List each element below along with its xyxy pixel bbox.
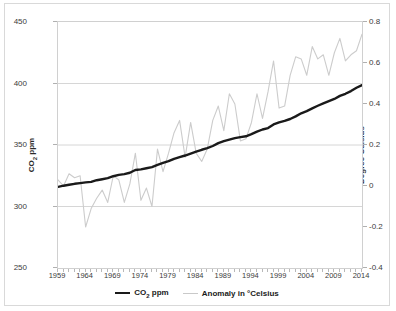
x-axis-minor-tick-mark: [217, 269, 218, 272]
x-axis-tick-label: 2014: [353, 271, 370, 280]
x-axis-minor-tick-mark: [118, 269, 119, 272]
y-axis-right-tick-label: 0.6: [369, 58, 396, 67]
y-axis-left-tick-mark: [53, 206, 57, 207]
x-axis-minor-tick-mark: [223, 269, 224, 272]
x-axis-tick-label: 1959: [49, 271, 66, 280]
x-axis-tick-label: 1989: [214, 271, 231, 280]
y-axis-left-tick-label: 300: [0, 201, 27, 210]
plot-area: [57, 21, 363, 269]
x-axis-minor-tick-mark: [306, 269, 307, 272]
y-axis-right-tick-mark: [363, 226, 367, 227]
y-axis-left-title: CO2 ppm: [27, 137, 38, 171]
y-axis-right-tick-label: 0.8: [369, 17, 396, 26]
x-axis-minor-tick-mark: [101, 269, 102, 272]
chart-svg: [58, 22, 362, 268]
x-axis-minor-tick-mark: [140, 269, 141, 272]
x-axis-tick-label: 1974: [132, 271, 149, 280]
x-axis-minor-tick-mark: [278, 269, 279, 272]
y-axis-right-tick-mark: [363, 21, 367, 22]
x-axis-minor-tick-mark: [151, 269, 152, 272]
x-axis-minor-tick-mark: [234, 269, 235, 272]
y-axis-right-tick-label: -0.4: [369, 263, 396, 272]
x-axis-minor-tick-mark: [212, 269, 213, 272]
legend-swatch-anomaly: [183, 293, 198, 294]
y-axis-right-tick-label: 0.2: [369, 140, 396, 149]
x-axis-minor-tick-mark: [79, 269, 80, 272]
x-axis-minor-tick-mark: [201, 269, 202, 272]
x-axis-minor-tick-mark: [173, 269, 174, 272]
y-axis-left-tick-label: 400: [0, 78, 27, 87]
y-axis-left-tick-label: 350: [0, 140, 27, 149]
x-axis-tick-label: 2009: [325, 271, 342, 280]
x-axis-minor-tick-mark: [273, 269, 274, 272]
y-axis-right-tick-label: -0.2: [369, 222, 396, 231]
x-axis-minor-tick-mark: [262, 269, 263, 272]
y-axis-left-tick-label: 450: [0, 17, 27, 26]
x-axis-minor-tick-mark: [328, 269, 329, 272]
x-axis-minor-tick-mark: [156, 269, 157, 272]
x-axis-minor-tick-mark: [168, 269, 169, 272]
x-axis-minor-tick-mark: [256, 269, 257, 272]
x-axis-minor-tick-mark: [107, 269, 108, 272]
x-axis-minor-tick-mark: [162, 269, 163, 272]
x-axis-minor-tick-mark: [284, 269, 285, 272]
y-axis-right-tick-mark: [363, 103, 367, 104]
y-axis-right-tick-mark: [363, 144, 367, 145]
chart-legend: CO2 ppm Anomaly in °Celsius: [5, 288, 389, 299]
x-axis-minor-tick-mark: [134, 269, 135, 272]
legend-item-anomaly[interactable]: Anomaly in °Celsius: [183, 289, 279, 298]
x-axis-minor-tick-mark: [250, 269, 251, 272]
y-axis-right-tick-mark: [363, 185, 367, 186]
y-axis-left-tick-mark: [53, 144, 57, 145]
x-axis-minor-tick-mark: [57, 269, 58, 272]
x-axis-minor-tick-mark: [300, 269, 301, 272]
x-axis-minor-tick-mark: [195, 269, 196, 272]
y-axis-left-tick-label: 250: [0, 263, 27, 272]
x-axis-minor-tick-mark: [289, 269, 290, 272]
x-axis-minor-tick-mark: [74, 269, 75, 272]
x-axis-minor-tick-mark: [190, 269, 191, 272]
x-axis-minor-tick-mark: [350, 269, 351, 272]
legend-swatch-co2: [115, 292, 130, 294]
x-axis-minor-tick-mark: [123, 269, 124, 272]
x-axis-minor-tick-mark: [245, 269, 246, 272]
x-axis-tick-label: 1964: [76, 271, 93, 280]
x-axis-minor-tick-mark: [179, 269, 180, 272]
x-axis-minor-tick-mark: [63, 269, 64, 272]
x-axis-minor-tick-mark: [228, 269, 229, 272]
x-axis-minor-tick-mark: [333, 269, 334, 272]
y-axis-right-tick-mark: [363, 62, 367, 63]
y-axis-left-tick-mark: [53, 21, 57, 22]
x-axis-minor-tick-mark: [322, 269, 323, 272]
x-axis-minor-tick-mark: [355, 269, 356, 272]
chart-container: CO2 ppm Degree Celsius 250300350400450 -…: [4, 3, 390, 306]
x-axis-minor-tick-mark: [317, 269, 318, 272]
x-axis-minor-tick-mark: [339, 269, 340, 272]
x-axis-tick-label: 1969: [104, 271, 121, 280]
y-axis-left-title-subscript: 2: [32, 156, 38, 159]
x-axis-minor-tick-mark: [85, 269, 86, 272]
x-axis-minor-tick-mark: [361, 269, 362, 272]
x-axis-minor-tick-mark: [344, 269, 345, 272]
y-axis-left-tick-mark: [53, 83, 57, 84]
x-axis-tick-label: 1979: [159, 271, 176, 280]
x-axis-minor-tick-mark: [295, 269, 296, 272]
legend-label-anomaly: Anomaly in °Celsius: [202, 289, 279, 298]
anomaly-series-line: [58, 34, 362, 227]
x-axis-tick-label: 1984: [187, 271, 204, 280]
y-axis-right-tick-label: 0.4: [369, 99, 396, 108]
x-axis-tick-label: 2004: [297, 271, 314, 280]
x-axis-minor-tick-mark: [129, 269, 130, 272]
x-axis-minor-tick-mark: [96, 269, 97, 272]
legend-label-co2-subscript: 2: [146, 293, 149, 299]
y-axis-left-tick-mark: [53, 267, 57, 268]
x-axis-minor-tick-mark: [112, 269, 113, 272]
x-axis-minor-tick-mark: [90, 269, 91, 272]
legend-item-co2[interactable]: CO2 ppm: [115, 288, 168, 299]
x-axis-minor-tick-mark: [68, 269, 69, 272]
y-axis-right-tick-label: 0: [369, 181, 396, 190]
gridlines-group: [58, 84, 362, 207]
x-axis-minor-tick-mark: [145, 269, 146, 272]
x-axis-minor-tick-mark: [184, 269, 185, 272]
y-axis-right-tick-mark: [363, 267, 367, 268]
